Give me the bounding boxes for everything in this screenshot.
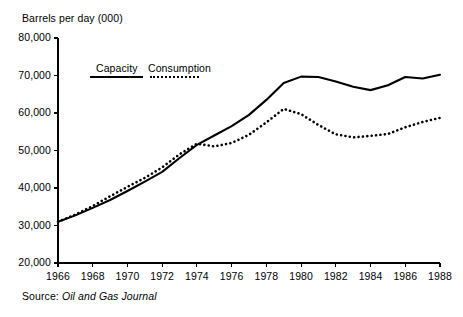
y-axis-ticks bbox=[54, 38, 58, 263]
y-tick-label: 70,000 bbox=[3, 69, 51, 81]
y-tick-label: 60,000 bbox=[3, 106, 51, 118]
legend-swatch-capacity bbox=[90, 76, 143, 78]
x-tick-label: 1988 bbox=[420, 270, 460, 282]
legend-label-capacity: Capacity bbox=[96, 62, 138, 74]
source-note: Source: Oil and Gas Journal bbox=[22, 290, 157, 302]
y-tick-label: 20,000 bbox=[3, 256, 51, 268]
legend-label-consumption: Consumption bbox=[148, 62, 211, 74]
y-tick-label: 30,000 bbox=[3, 219, 51, 231]
x-axis-ticks bbox=[58, 263, 440, 267]
legend-swatch-consumption bbox=[150, 76, 199, 78]
data-series-group bbox=[58, 75, 440, 222]
series-line-consumption bbox=[58, 109, 440, 222]
y-tick-label: 80,000 bbox=[3, 31, 51, 43]
source-prefix: Source: bbox=[22, 290, 59, 302]
y-tick-label: 40,000 bbox=[3, 181, 51, 193]
chart-figure: Barrels per day (000) 20,00030,00040,000… bbox=[0, 0, 463, 317]
y-tick-label: 50,000 bbox=[3, 144, 51, 156]
source-publication: Oil and Gas Journal bbox=[62, 290, 157, 302]
series-line-capacity bbox=[58, 75, 440, 222]
